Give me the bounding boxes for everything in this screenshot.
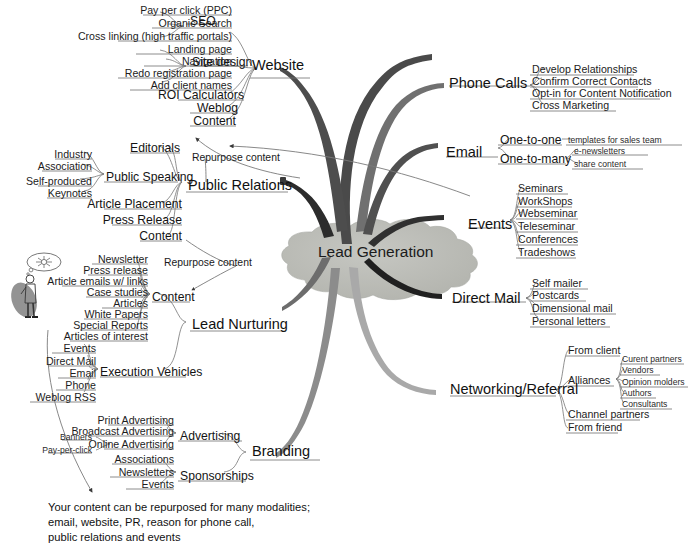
node-opinion-molders[interactable]: Opinion molders <box>622 378 685 387</box>
node-redo-registration[interactable]: Redo registration page <box>125 68 232 79</box>
node-cross-marketing[interactable]: Cross Marketing <box>532 100 609 111</box>
node-advertising[interactable]: Advertising <box>180 430 240 442</box>
node-keynotes[interactable]: Keynotes <box>48 188 92 199</box>
node-webseminar[interactable]: Webseminar <box>518 208 577 219</box>
node-case-studies[interactable]: Case studies <box>87 287 148 298</box>
node-pr-content[interactable]: Content <box>139 230 182 242</box>
node-one-to-many[interactable]: One-to-many <box>500 153 571 165</box>
node-dimensional-mail[interactable]: Dimensional mail <box>532 303 613 314</box>
node-personal-letters[interactable]: Personal letters <box>532 316 606 327</box>
node-self-produced[interactable]: Self-produced <box>26 176 92 187</box>
node-print-advertising[interactable]: Print Advertising <box>97 415 174 426</box>
node-article-placement[interactable]: Article Placement <box>87 198 182 210</box>
node-pay-per-click[interactable]: Pay-per-click <box>42 446 92 455</box>
node-networking[interactable]: Networking/Referral <box>450 382 578 397</box>
node-website[interactable]: Website <box>252 58 304 73</box>
node-white-papers[interactable]: White Papers <box>84 309 148 320</box>
node-lead-nurturing[interactable]: Lead Nurturing <box>192 317 288 332</box>
node-organic-search[interactable]: Organic Search <box>158 18 232 29</box>
node-article-emails[interactable]: Article emails w/ links <box>47 276 148 287</box>
node-industry[interactable]: Industry <box>54 149 92 160</box>
node-press-release[interactable]: Press release <box>83 265 148 276</box>
node-articles-of-interest[interactable]: Articles of interest <box>64 331 148 342</box>
node-ev-phone[interactable]: Phone <box>65 380 96 391</box>
node-cross-linking[interactable]: Cross linking (high traffic portals) <box>78 31 232 42</box>
node-curent-partners[interactable]: Curent partners <box>622 355 682 364</box>
node-ev-direct-mail[interactable]: Direct Mail <box>46 356 96 367</box>
node-associations[interactable]: Associations <box>115 454 174 465</box>
node-special-reports[interactable]: Special Reports <box>73 320 148 331</box>
node-one-to-one[interactable]: One-to-one <box>500 134 562 146</box>
annotation-repurpose-top: Repurpose content <box>192 153 280 163</box>
node-newsletters[interactable]: Newsletters <box>119 467 174 478</box>
footnote: Your content can be repurposed for many … <box>48 500 310 544</box>
node-teleseminar[interactable]: Teleseminar <box>518 221 575 232</box>
node-ev-events[interactable]: Events <box>64 343 96 354</box>
node-events[interactable]: Events <box>468 217 512 232</box>
node-templates-sales[interactable]: templates for sales team <box>568 136 662 145</box>
node-ln-content[interactable]: Content <box>152 291 195 303</box>
node-articles[interactable]: Articles <box>113 298 148 309</box>
node-weblog[interactable]: Weblog <box>197 102 238 114</box>
node-from-friend[interactable]: From friend <box>568 422 622 433</box>
node-roi-calculators[interactable]: ROI Calculators <box>158 89 244 101</box>
node-sponsorships[interactable]: Sponsorships <box>180 470 254 482</box>
node-branding[interactable]: Branding <box>252 444 310 459</box>
node-tradeshows[interactable]: Tradeshows <box>518 247 575 258</box>
node-self-mailer[interactable]: Self mailer <box>532 278 582 289</box>
node-ppc[interactable]: Pay per click (PPC) <box>140 5 232 16</box>
node-vendors[interactable]: Vendors <box>622 366 654 375</box>
node-banners[interactable]: Banners <box>60 433 92 442</box>
node-press-release-pr[interactable]: Press Release <box>103 214 182 226</box>
node-conferences[interactable]: Conferences <box>518 234 578 245</box>
node-e-newsletters[interactable]: e-newsletters <box>574 147 625 156</box>
node-alliances[interactable]: Alliances <box>568 375 610 386</box>
footnote-line-1: Your content can be repurposed for many … <box>48 500 310 515</box>
node-ev-email[interactable]: Email <box>70 368 97 379</box>
node-public-speaking[interactable]: Public Speaking <box>106 171 193 183</box>
node-editorials[interactable]: Editorials <box>130 142 180 154</box>
node-channel-partners[interactable]: Channel partners <box>568 409 649 420</box>
annotation-repurpose-mid: Repurpose content <box>164 258 252 268</box>
node-postcards[interactable]: Postcards <box>532 290 579 301</box>
node-ev-weblog-rss[interactable]: Weblog RSS <box>36 392 96 403</box>
node-opt-in[interactable]: Opt-in for Content Notification <box>532 88 672 99</box>
node-newsletter[interactable]: Newsletter <box>98 254 148 265</box>
node-br-events[interactable]: Events <box>142 479 174 490</box>
node-direct-mail[interactable]: Direct Mail <box>452 291 520 306</box>
node-online-advertising[interactable]: Online Advertising <box>89 439 174 450</box>
node-from-client[interactable]: From client <box>568 345 620 356</box>
node-public-relations[interactable]: Public Relations <box>188 178 292 193</box>
node-confirm-contacts[interactable]: Confirm Correct Contacts <box>532 76 652 87</box>
node-develop-relationships[interactable]: Develop Relationships <box>532 64 637 75</box>
person-illustration <box>7 253 61 321</box>
node-phone-calls[interactable]: Phone Calls <box>449 76 527 91</box>
node-website-content[interactable]: Content <box>193 115 236 127</box>
footnote-line-3: public relations and events <box>48 530 310 544</box>
node-association[interactable]: Association <box>38 161 92 172</box>
node-authors[interactable]: Authors <box>622 389 652 398</box>
node-landing-page[interactable]: Landing page <box>168 44 232 55</box>
node-share-content[interactable]: share content <box>574 160 626 169</box>
node-seminars[interactable]: Seminars <box>518 183 563 194</box>
node-execution-vehicles[interactable]: Execution Vehicles <box>100 366 202 378</box>
wire-branding <box>276 268 340 458</box>
center-node-label[interactable]: Lead Generation <box>318 244 433 260</box>
footnote-line-2: email, website, PR, reason for phone cal… <box>48 515 310 530</box>
node-email[interactable]: Email <box>446 145 482 160</box>
node-workshops[interactable]: WorkShops <box>518 196 573 207</box>
node-navigation[interactable]: Navigation <box>182 56 232 67</box>
